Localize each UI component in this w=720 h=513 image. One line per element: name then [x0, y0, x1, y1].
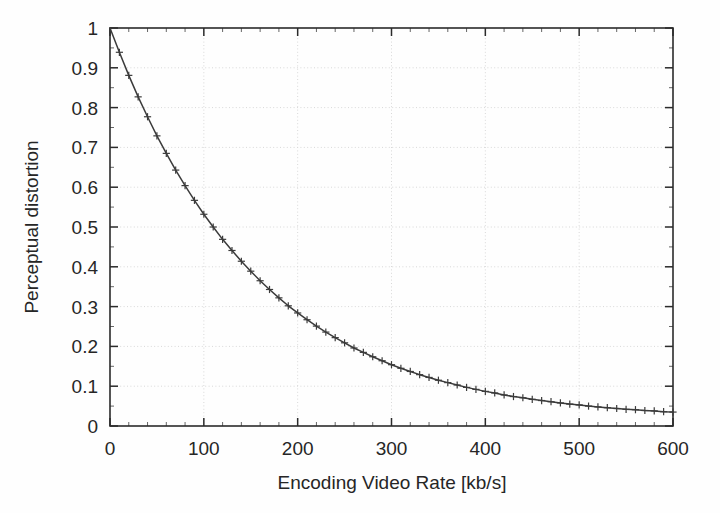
figure-container: 00.10.20.30.40.50.60.70.80.91 0100200300…	[0, 0, 720, 513]
y-tick-label: 0.8	[72, 98, 98, 119]
y-axis-title: Perceptual distortion	[21, 140, 42, 313]
rate-distortion-chart: 00.10.20.30.40.50.60.70.80.91 0100200300…	[0, 0, 720, 513]
x-tick-label: 600	[657, 438, 689, 459]
x-tick-label: 300	[376, 438, 408, 459]
x-tick-label: 100	[188, 438, 220, 459]
y-tick-label: 0.7	[72, 137, 98, 158]
x-tick-label: 200	[282, 438, 314, 459]
y-tick-label: 0	[87, 416, 98, 437]
x-tick-label: 500	[563, 438, 595, 459]
chart-background	[0, 0, 720, 513]
x-axis-title: Encoding Video Rate [kb/s]	[278, 472, 507, 493]
x-tick-label: 400	[469, 438, 501, 459]
y-tick-label: 0.6	[72, 177, 98, 198]
y-tick-label: 0.3	[72, 297, 98, 318]
y-tick-label: 0.1	[72, 376, 98, 397]
y-tick-label: 1	[87, 18, 98, 39]
y-tick-label: 0.2	[72, 336, 98, 357]
y-tick-label: 0.9	[72, 58, 98, 79]
y-tick-label: 0.5	[72, 217, 98, 238]
y-tick-label: 0.4	[72, 257, 99, 278]
x-tick-label: 0	[105, 438, 116, 459]
